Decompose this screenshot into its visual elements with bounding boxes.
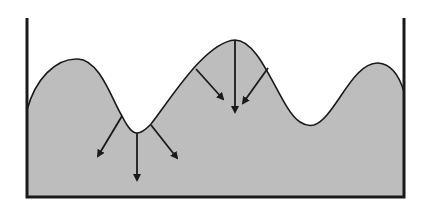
surface-diagram <box>0 0 422 205</box>
filled-region <box>27 40 404 197</box>
gray-fill <box>27 40 404 197</box>
